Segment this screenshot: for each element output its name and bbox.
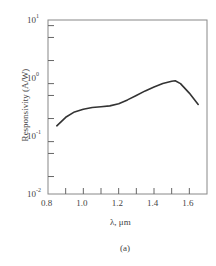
x-tick-label: 1.0 <box>76 198 87 208</box>
plot-frame <box>48 20 207 194</box>
y-axis-label: Responsivity (A/W) <box>20 60 30 150</box>
figure-caption: (a) <box>120 243 130 253</box>
y-tick-label: 101 <box>27 13 39 25</box>
x-tick-label: 0.8 <box>41 198 52 208</box>
y-tick-label: 10-2 <box>27 187 41 199</box>
x-tick-label: 1.4 <box>147 198 158 208</box>
responsivity-curve <box>57 81 198 126</box>
x-tick-label: 1.6 <box>182 198 193 208</box>
x-axis-label: λ, μm <box>110 217 131 227</box>
x-tick-label: 1.2 <box>112 198 123 208</box>
